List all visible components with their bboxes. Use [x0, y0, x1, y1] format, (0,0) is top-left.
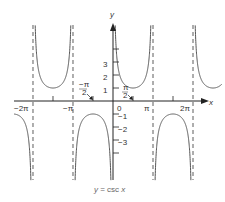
csc-branch — [14, 114, 31, 180]
csc-branch — [155, 114, 191, 180]
svg-text:2: 2 — [123, 91, 128, 100]
caption: y = csc x — [93, 185, 126, 194]
csc-branch — [115, 25, 151, 88]
tick-label-yn3: −3 — [118, 138, 128, 147]
svg-text:y = csc x: y = csc x — [93, 185, 126, 194]
tick-label-neg-pi: −π — [63, 104, 74, 113]
tick-label-neg-2pi: −2π — [14, 104, 29, 113]
csc-branch — [195, 25, 222, 88]
y-axis-label: y — [109, 10, 115, 19]
tick-label-pi: π — [144, 104, 150, 113]
tick-label-y2: 2 — [103, 73, 108, 82]
annotation-neg-half-pi: −π 2 — [79, 80, 93, 100]
csc-branch — [35, 25, 71, 88]
x-axis-label: x — [208, 98, 214, 107]
tick-label-y3: 3 — [103, 60, 108, 69]
tick-label-yn2: −2 — [118, 125, 128, 134]
csc-chart: y x −2π −π 0 π 2π 3 2 1 −1 −2 −3 −π 2 π … — [0, 0, 225, 202]
svg-text:2: 2 — [82, 88, 87, 97]
csc-branch — [75, 114, 111, 180]
x-arrow-icon — [201, 98, 209, 104]
tick-label-2pi: 2π — [180, 104, 190, 113]
tick-label-yn1: −1 — [118, 112, 128, 121]
annotation-half-pi: π 2 — [122, 83, 133, 100]
tick-label-y1: 1 — [103, 86, 108, 95]
